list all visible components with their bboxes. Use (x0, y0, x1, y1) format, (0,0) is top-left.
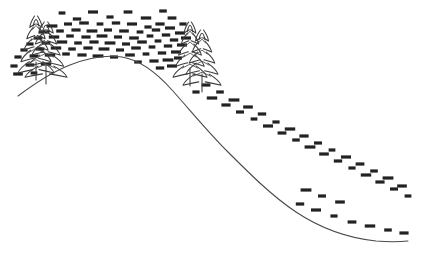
snow-dash (64, 22, 72, 25)
snow-dash (147, 34, 154, 37)
snow-dash (314, 141, 322, 144)
snow-dash (329, 148, 336, 151)
snow-dash (89, 40, 98, 43)
snow-dash (356, 162, 365, 165)
snow-dash (243, 105, 253, 108)
snow-dash (301, 188, 312, 191)
snow-dash (131, 46, 141, 49)
snow-dash (296, 202, 304, 205)
snow-dash (278, 131, 287, 134)
snow-dash (159, 9, 167, 12)
snow-dash (77, 53, 86, 56)
snow-dash (292, 138, 300, 141)
snow-dash (365, 224, 375, 227)
snow-dash (62, 52, 70, 55)
snow-dash (383, 176, 394, 179)
snow-dash (149, 59, 158, 62)
snow-dash (162, 33, 170, 36)
snow-dash (181, 36, 191, 39)
snow-dash (144, 25, 151, 28)
snow-dash (236, 110, 244, 113)
snow-dash (97, 22, 104, 25)
snow-dash (370, 169, 378, 172)
snow-dash (163, 58, 174, 61)
snow-dash (88, 10, 98, 13)
snow-dash (155, 39, 162, 42)
snow-dash (361, 173, 371, 176)
snow-dash (59, 11, 66, 14)
snow-dash (318, 194, 326, 197)
snow-dash (87, 29, 98, 32)
snow-dash (71, 28, 80, 31)
snow-dash (272, 120, 279, 123)
snow-dash (66, 34, 74, 37)
snow-dash (348, 220, 357, 223)
snow-dash (168, 16, 177, 19)
snow-dash (397, 184, 407, 187)
snow-dash (229, 98, 240, 101)
snow-dash (330, 214, 337, 217)
snow-dash (137, 30, 144, 33)
snow-dash (258, 112, 266, 115)
snow-dash (112, 21, 120, 24)
snow-dash (83, 46, 92, 49)
snow-dash (127, 22, 137, 25)
snow-dash (216, 90, 224, 93)
snow-dash (10, 64, 17, 67)
snow-dash (192, 90, 199, 93)
snow-dash (119, 29, 129, 32)
snow-dash (141, 16, 151, 19)
snow-dash (149, 45, 156, 48)
snow-dash (202, 83, 211, 86)
snow-dash (57, 40, 67, 43)
snow-dash (104, 28, 112, 31)
snow-dash (175, 31, 185, 34)
snow-dash (170, 38, 178, 41)
snow-dash (156, 66, 164, 69)
scene-canvas (0, 0, 440, 268)
snow-dash (129, 36, 139, 39)
snow-dash (114, 35, 122, 38)
snow-dash (99, 47, 110, 50)
snow-dash (125, 53, 135, 56)
snow-dash (73, 17, 81, 20)
snow-dash (285, 127, 295, 130)
snow-dash (106, 15, 113, 18)
snow-dash (164, 44, 172, 47)
snow-dash (207, 96, 217, 99)
snow-dash (116, 48, 124, 51)
snow-dash (81, 35, 90, 38)
snow-dash (334, 159, 342, 162)
snow-dash (335, 200, 345, 203)
snow-dash (14, 55, 21, 58)
snow-dash (305, 145, 316, 148)
snow-dash (375, 180, 384, 183)
snow-dash (399, 231, 408, 234)
snow-dash (341, 155, 351, 158)
snow-dash (152, 28, 160, 31)
snow-dash (79, 21, 89, 24)
snow-dash (143, 52, 150, 55)
snow-dash (158, 51, 166, 54)
snow-dash (319, 152, 329, 155)
snow-dash (122, 42, 130, 45)
snow-dash (299, 134, 308, 137)
snow-dash (263, 124, 273, 127)
snow-dash (68, 47, 76, 50)
canvas-background (0, 0, 440, 268)
snow-dash (311, 208, 321, 211)
snow-dash (56, 29, 64, 32)
snow-dash (105, 41, 116, 44)
snow-dash (179, 22, 186, 25)
snow-dash (155, 22, 164, 25)
snow-dash (390, 187, 398, 190)
hillside-illustration (0, 0, 440, 268)
snow-dash (405, 194, 412, 197)
snow-dash (124, 10, 133, 13)
snow-dash (221, 103, 230, 106)
snow-dash (97, 34, 108, 37)
snow-dash (165, 26, 175, 29)
snow-dash (384, 228, 392, 231)
snow-dash (251, 117, 258, 120)
snow-dash (74, 41, 82, 44)
